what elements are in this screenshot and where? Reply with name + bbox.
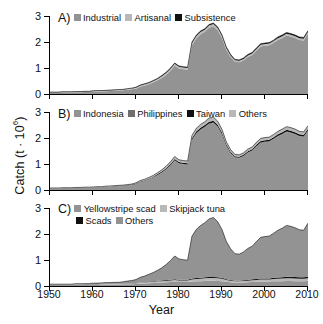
panel-c-area-chart xyxy=(50,208,308,286)
panel-b-ytick-1: 1 xyxy=(11,159,41,170)
panel-b-plot-area xyxy=(50,112,308,190)
xtick-label-2010: 2010 xyxy=(287,289,323,300)
panel-b: B)IndonesiaPhilippinesTaiwanOthers 0 1 2… xyxy=(0,104,323,198)
xtick-label-1990: 1990 xyxy=(201,289,241,300)
xtick-label-1960: 1960 xyxy=(72,289,112,300)
panel-b-ytick-2: 2 xyxy=(11,133,41,144)
xtick-label-2000: 2000 xyxy=(244,289,284,300)
area-series-industrial xyxy=(50,26,308,94)
panel-c-plot-area xyxy=(50,208,308,286)
panel-a-ytick-1: 1 xyxy=(11,63,41,74)
panel-a-plot-area xyxy=(50,16,308,94)
area-series-indonesia xyxy=(50,123,308,190)
figure-root: Catch (t ∙ 106) A)IndustrialArtisanalSub… xyxy=(0,0,323,324)
panel-a-area-chart xyxy=(50,16,308,94)
panel-b-ytick-3: 3 xyxy=(11,107,41,118)
panel-a-ytick-3: 3 xyxy=(11,11,41,22)
panel-c-ytick-1: 1 xyxy=(11,255,41,266)
area-series-others xyxy=(50,217,308,284)
x-axis-label: Year xyxy=(0,303,323,317)
panel-b-ytick-0: 0 xyxy=(11,185,41,196)
panel-a-ytick-0: 0 xyxy=(11,89,41,100)
xtick-label-1970: 1970 xyxy=(115,289,155,300)
panel-b-area-chart xyxy=(50,112,308,190)
panel-c: C)Yellowstripe scadSkipjack tuna ScadsOt… xyxy=(0,200,323,300)
panel-c-ytick-2: 2 xyxy=(11,229,41,240)
xtick-label-1950: 1950 xyxy=(29,289,69,300)
xtick-label-1980: 1980 xyxy=(158,289,198,300)
panel-a: A)IndustrialArtisanalSubsistence 0 1 2 3 xyxy=(0,8,323,102)
panel-a-ytick-2: 2 xyxy=(11,37,41,48)
panel-c-ytick-3: 3 xyxy=(11,203,41,214)
